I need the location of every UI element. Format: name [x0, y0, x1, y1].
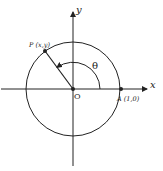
origin-label: O [74, 92, 81, 101]
x-axis-label: x [150, 79, 156, 90]
y-axis-label: y [75, 4, 82, 15]
point-a-label: A (1,0) [116, 95, 140, 103]
radius-line-op [45, 51, 73, 89]
point-a [119, 87, 123, 91]
point-origin [71, 87, 75, 91]
unit-circle-diagram: x y O P (x,y) A (1,0) θ [0, 0, 163, 171]
angle-theta-label: θ [92, 60, 98, 71]
point-p-label: P (x,y) [28, 41, 50, 49]
point-p [43, 49, 47, 53]
